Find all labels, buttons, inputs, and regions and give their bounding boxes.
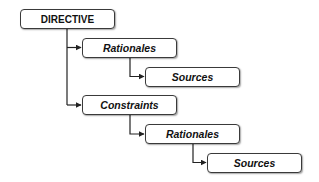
connector-rationales-sources-2 xyxy=(193,144,206,163)
hierarchy-diagram: DIRECTIVE Rationales Sources Constraints… xyxy=(0,0,319,182)
connector-constraints-rationales xyxy=(130,115,144,134)
node-label: Sources xyxy=(172,71,213,83)
node-rationales-2: Rationales xyxy=(145,124,240,144)
node-label: Rationales xyxy=(166,128,219,140)
node-constraints: Constraints xyxy=(82,95,177,115)
node-label: Constraints xyxy=(100,99,158,111)
node-directive: DIRECTIVE xyxy=(20,9,115,29)
connector-rationales-sources xyxy=(130,57,144,77)
node-rationales: Rationales xyxy=(82,38,177,58)
node-sources: Sources xyxy=(145,67,240,87)
node-label: Sources xyxy=(234,157,275,169)
node-label: Rationales xyxy=(103,42,156,54)
node-sources-2: Sources xyxy=(207,153,302,173)
node-label: DIRECTIVE xyxy=(41,14,94,25)
